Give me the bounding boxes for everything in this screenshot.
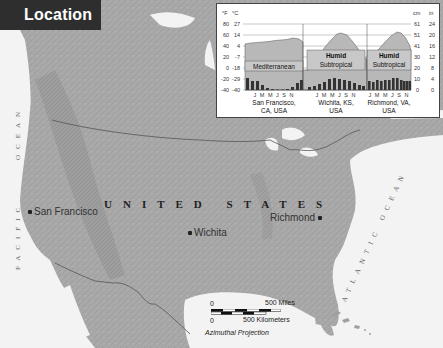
- right-tick-cm: 61: [414, 21, 420, 27]
- right-tick-cm: 51: [414, 32, 420, 38]
- station-location-line1: Richmond, VA,: [368, 99, 411, 106]
- right-tick-in: 12: [429, 54, 435, 60]
- left-tick-f: -20: [221, 76, 229, 82]
- left-tick-c: 27: [234, 21, 240, 27]
- station-location-line1: San Francisco,: [252, 99, 296, 106]
- pacific-ocean-label-part1: PACIFIC: [14, 202, 22, 270]
- month-axis-labels: J M M J S N: [369, 92, 410, 98]
- left-tick-f: 80: [223, 21, 229, 27]
- right-tick-cm: 30: [414, 54, 420, 60]
- section-title: Location: [0, 0, 101, 30]
- scale-miles-zero: 0: [210, 300, 214, 307]
- right-tick-cm: 10: [414, 76, 420, 82]
- right-tick-cm: 20: [414, 65, 420, 71]
- right-tick-in: 8: [431, 65, 434, 71]
- climate-type-label-line1: Humid: [379, 52, 399, 59]
- climate-type-label-line2: Subtropical: [320, 61, 353, 69]
- climate-graph-wichita: Humid Subtropical J M M J S N Wichita, K…: [303, 33, 367, 114]
- left-tick-c: -40: [232, 87, 240, 93]
- right-tick-in: 0: [431, 87, 434, 93]
- left-tick-c: -18: [232, 65, 240, 71]
- month-axis-labels: J M M J S N: [254, 92, 295, 98]
- city-wichita: Wichita: [188, 227, 227, 238]
- city-marker-icon: [28, 210, 32, 214]
- city-marker-icon: [188, 231, 192, 235]
- scale-km-zero: 0: [210, 317, 214, 324]
- city-san-francisco: San Francisco: [28, 206, 98, 217]
- climate-type-label-line2: Subtropical: [373, 61, 406, 69]
- right-tick-in: 20: [429, 32, 435, 38]
- country-label-united-states: UNITED STATES: [104, 198, 333, 210]
- scale-miles-label: 500 Miles: [265, 299, 295, 306]
- month-axis-labels: J M M J S N: [316, 92, 357, 98]
- axis-header-celsius: °C: [232, 10, 238, 16]
- left-tick-f: 60: [223, 32, 229, 38]
- right-tick-cm: 41: [414, 43, 420, 49]
- pacific-ocean-label-part2: OCEAN: [14, 106, 22, 160]
- station-location-line2: CA, USA: [261, 107, 288, 114]
- left-tick-f: 0: [226, 65, 229, 71]
- city-marker-icon: [318, 216, 322, 220]
- left-tick-c: -7: [235, 54, 240, 60]
- station-location-line2: USA: [329, 107, 343, 114]
- climate-graph-san-francisco: Mediterranean J M M J S N San Francisco,…: [245, 38, 303, 114]
- left-tick-f: 20: [223, 54, 229, 60]
- axis-header-cm: cm: [413, 10, 421, 16]
- left-tick-c: 14: [234, 32, 240, 38]
- left-tick-f: 40: [223, 43, 229, 49]
- left-tick-f: -40: [221, 87, 229, 93]
- axis-header-in: in: [429, 10, 433, 16]
- left-tick-c: -29: [232, 76, 240, 82]
- climate-graphs-panel: °F °C cm in 80 27 60 14 40 4 20 -7 0 -18…: [216, 3, 440, 118]
- station-location-line2: USA: [382, 107, 396, 114]
- climate-type-label: Mediterranean: [253, 63, 295, 70]
- right-tick-in: 16: [429, 43, 435, 49]
- climate-type-label-line1: Humid: [326, 52, 346, 59]
- axis-header-fahrenheit: °F: [222, 10, 228, 16]
- station-location-line1: Wichita, KS,: [318, 99, 354, 106]
- city-richmond: Richmond: [270, 212, 322, 223]
- right-tick-in: 4: [431, 76, 434, 82]
- right-tick-in: 24: [429, 21, 435, 27]
- left-tick-c: 4: [237, 43, 240, 49]
- climate-graph-richmond: Humid Subtropical J M M J S N Richmond, …: [367, 32, 411, 114]
- projection-label: Azimuthal Projection: [205, 329, 269, 336]
- right-tick-cm: 0: [416, 87, 419, 93]
- scale-km-label: 500 Kilometers: [243, 316, 290, 323]
